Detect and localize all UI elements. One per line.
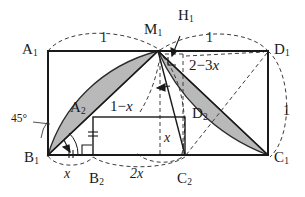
- dashed-arc-1-minus-x: [140, 62, 159, 112]
- length-label-right-side: 1: [283, 104, 290, 118]
- vertex-label-a2: A2: [70, 100, 86, 117]
- expression-1-minus-x: 1−x: [110, 99, 133, 114]
- expression-2-minus-3x: 2−3x: [189, 58, 219, 73]
- vertex-label-d1: D1: [274, 42, 290, 59]
- arrow-pointer-h1: [171, 36, 180, 56]
- length-label-inner-x: x: [164, 131, 170, 145]
- length-label-top-right: 1: [206, 31, 213, 45]
- geometry-figure: A1 D1 B1 C1 M1 H1 A2 B2 C2 D2 1 1 1 x 2x…: [0, 0, 305, 197]
- angle-label-45: 45°: [11, 113, 27, 125]
- vertex-label-a1: A1: [22, 42, 38, 59]
- vertex-label-c2: C2: [177, 171, 192, 188]
- length-label-bottom-x: x: [64, 167, 70, 181]
- vertex-label-m1: M1: [144, 22, 162, 39]
- vertex-label-h1: H1: [178, 8, 194, 25]
- right-angle-mark-b2: [82, 145, 92, 155]
- segment-b1-m1: [48, 51, 158, 155]
- dashed-arc-bottom-x: [48, 156, 93, 165]
- dashed-leader-2-minus-3x: [186, 52, 264, 56]
- length-label-top-left: 1: [100, 31, 107, 45]
- vertex-label-b1: B1: [24, 150, 39, 167]
- vertex-label-b2: B2: [89, 171, 104, 188]
- vertex-label-d2: D2: [192, 106, 208, 123]
- inner-rectangle: [93, 117, 185, 155]
- vertex-label-c1: C1: [274, 150, 289, 167]
- arrow-pointer-b1-angle: [63, 140, 70, 152]
- length-label-bottom-2x: 2x: [130, 167, 143, 181]
- dashed-circle-arc-lower-left: [136, 152, 181, 162]
- dashed-arc-top-right: [160, 34, 268, 51]
